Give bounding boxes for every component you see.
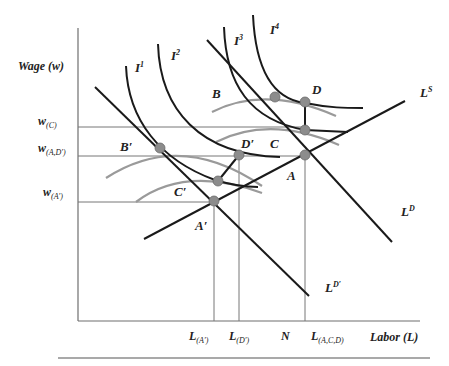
labor-demand-line <box>207 40 392 242</box>
label-w-c: w(C) <box>38 114 57 130</box>
label-labor-supply: LS <box>419 85 433 100</box>
point-a-prime <box>209 196 219 206</box>
label-point-c: C <box>270 136 279 151</box>
y-axis-label: Wage (w) <box>18 59 64 73</box>
label-point-a-prime: A′ <box>194 218 208 233</box>
point-d <box>300 97 310 107</box>
labor-supply-line <box>144 101 405 239</box>
label-i2: I2 <box>170 48 180 63</box>
point-b <box>270 92 280 102</box>
label-l-a-prime: L(A′) <box>188 329 209 345</box>
point-c-prime <box>213 176 223 186</box>
label-i3: I3 <box>233 33 243 48</box>
label-w-a-prime: w(A′) <box>43 185 63 201</box>
label-n: N <box>280 329 291 343</box>
label-point-c-prime: C′ <box>174 184 187 199</box>
label-i1: I1 <box>134 60 144 75</box>
label-point-d-prime: D′ <box>240 136 254 151</box>
point-c <box>300 125 310 135</box>
label-i4: I4 <box>269 22 279 37</box>
label-l-acd: L(A,C,D) <box>310 329 344 345</box>
label-w-ad: w(A,D′) <box>38 141 66 157</box>
point-a <box>300 150 310 160</box>
point-b-prime <box>155 143 165 153</box>
x-axis-label: Labor (L) <box>369 330 418 344</box>
point-d-prime <box>234 150 244 160</box>
label-point-b-prime: B′ <box>119 139 133 154</box>
labor-demand-shifted-line <box>95 87 309 296</box>
label-point-d: D <box>311 82 322 97</box>
iso-curve-c-prime <box>136 181 262 202</box>
label-l-d-prime: L(D′) <box>228 329 250 345</box>
label-point-a: A <box>286 168 296 183</box>
label-labor-demand-shifted: LD′ <box>324 280 341 295</box>
label-labor-demand: LD <box>400 204 415 219</box>
label-point-b: B <box>211 86 221 101</box>
labor-market-diagram: B D C A B′ D′ C′ A′ I1 I2 I3 I4 LS LD LD… <box>0 0 449 366</box>
